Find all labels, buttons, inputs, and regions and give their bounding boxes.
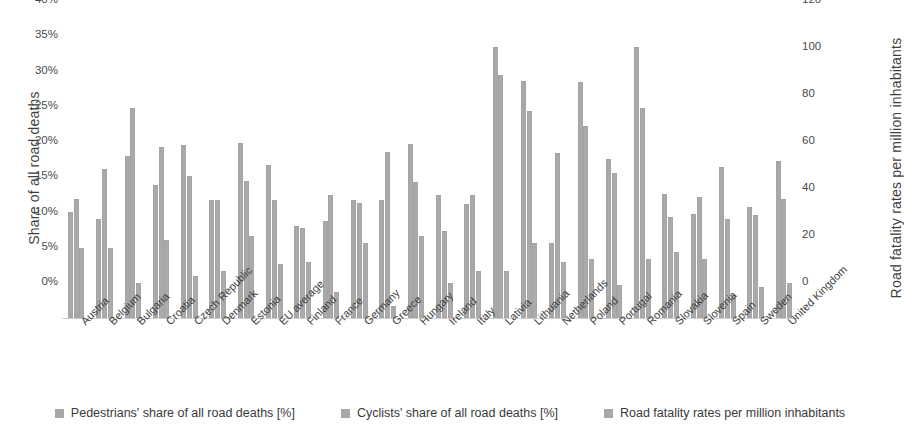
bar-group [119,36,147,318]
bar-series-1 [238,143,243,318]
y-tick-left: 15% [35,170,58,182]
bar-series-3 [532,243,537,318]
bar-series-3 [476,271,481,318]
bar-group [345,36,373,318]
bar-series-2 [498,75,503,318]
bar-group [657,36,685,318]
bar-series-3 [278,264,283,318]
bar-group [572,36,600,318]
bar-group [204,36,232,318]
bar-series-3 [702,259,707,318]
legend-label: Road fatality rates per million inhabita… [620,406,845,420]
legend-label: Pedestrians' share of all road deaths [%… [71,406,295,420]
bar-series-3 [108,248,113,319]
bar-series-3 [646,259,651,318]
bar-group [260,36,288,318]
bar-group [543,36,571,318]
bar-series-2 [640,108,645,318]
y-tick-right: 60 [802,135,815,147]
bar-group [373,36,401,318]
y-tick-left: 0% [41,276,58,288]
legend-swatch-icon [55,409,64,418]
bar-series-3 [674,252,679,318]
y-axis-title-right: Road fatality rates per million inhabita… [888,18,904,318]
bar-series-3 [363,243,368,318]
y-axis-right-ticks: 020406080100120 [802,0,842,282]
bar-series-1 [578,82,583,318]
bar-group [458,36,486,318]
bar-series-1 [634,47,639,318]
bar-group [62,36,90,318]
y-tick-left: 20% [35,135,58,147]
bar-series-1 [181,145,186,318]
y-tick-right: 0 [802,276,808,288]
y-tick-left: 25% [35,100,58,112]
bar-group [742,36,770,318]
bar-series-3 [164,240,169,318]
bar-group [515,36,543,318]
bar-group [90,36,118,318]
bar-group [175,36,203,318]
y-tick-left: 35% [35,29,58,41]
bar-series-1 [125,156,130,318]
legend-swatch-icon [604,409,613,418]
legend-item[interactable]: Road fatality rates per million inhabita… [604,406,845,420]
bar-group [770,36,798,318]
bar-series-1 [408,144,413,318]
y-tick-right: 20 [802,229,815,241]
legend-item[interactable]: Pedestrians' share of all road deaths [%… [55,406,295,420]
bar-series-2 [130,108,135,318]
chart-legend: Pedestrians' share of all road deaths [%… [0,406,900,420]
bar-groups [62,36,798,318]
y-tick-left: 30% [35,65,58,77]
bar-series-3 [79,248,84,319]
bar-series-2 [527,111,532,318]
bar-series-3 [419,236,424,318]
legend-item[interactable]: Cyclists' share of all road deaths [%] [341,406,558,420]
y-tick-right: 120 [802,0,821,6]
bar-group [685,36,713,318]
bar-group [317,36,345,318]
bar-group [147,36,175,318]
y-tick-left: 5% [41,241,58,253]
bar-group [430,36,458,318]
bar-group [600,36,628,318]
bar-group [289,36,317,318]
y-tick-right: 100 [802,41,821,53]
bar-series-1 [521,81,526,318]
bar-group [487,36,515,318]
y-tick-left: 40% [35,0,58,6]
bar-group [402,36,430,318]
y-tick-right: 80 [802,88,815,100]
y-tick-right: 40 [802,182,815,194]
bar-series-2 [74,199,79,318]
legend-label: Cyclists' share of all road deaths [%] [357,406,558,420]
legend-swatch-icon [341,409,350,418]
bar-series-1 [493,47,498,318]
bar-group [628,36,656,318]
y-axis-left-ticks: 0%5%10%15%20%25%30%35%40% [18,0,58,282]
y-tick-left: 10% [35,206,58,218]
bar-series-1 [68,212,73,318]
bar-group [713,36,741,318]
